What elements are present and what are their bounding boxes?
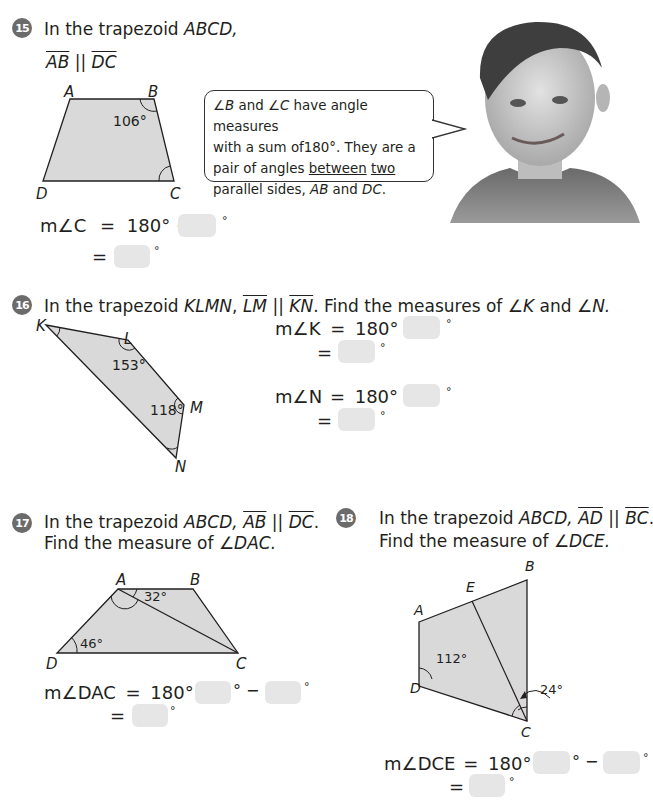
degree-symbol: ° (304, 681, 310, 693)
vertex-c: C (236, 654, 246, 674)
student-photo (440, 8, 645, 226)
trapezoid-klmn-figure (30, 320, 250, 470)
parallel-symbol: || (267, 296, 289, 316)
text: pair of angles (213, 161, 309, 176)
bubble-line-4: parallel sides, AB and DC. (213, 179, 425, 200)
vertex-d: D (46, 654, 58, 674)
answer-box[interactable] (132, 704, 168, 727)
answer-box[interactable] (533, 751, 570, 774)
text: . (382, 182, 386, 197)
vertex-n: N (175, 457, 186, 477)
vertex-l: L (124, 329, 132, 349)
text: . (649, 508, 653, 528)
problem-number-badge: 18 (336, 508, 356, 528)
degree-symbol: ° (222, 215, 228, 227)
answer-box[interactable] (265, 681, 301, 704)
underlined-text: two (371, 161, 395, 176)
title-text: In the trapezoid (379, 508, 519, 528)
shape-name: ABCD, (519, 508, 578, 528)
answer-box[interactable] (338, 340, 375, 363)
trapezoid-abcd-figure (30, 80, 190, 200)
text: Find the measure of (379, 531, 554, 551)
text: . Find the measures of (313, 296, 508, 316)
segment-bc: BC (625, 508, 649, 528)
equation-lhs: m∠K (275, 318, 320, 339)
bubble-line-1: ∠B and ∠C have angle measures (213, 95, 425, 137)
degree-symbol: ° (446, 318, 452, 330)
degree-symbol: ° (170, 705, 176, 717)
vertex-m: M (190, 398, 203, 418)
speech-bubble: ∠B and ∠C have angle measures with a sum… (204, 90, 434, 182)
segment-ab: AB (310, 182, 328, 197)
answer-box[interactable] (195, 681, 231, 704)
equation-17-line1: m∠DAC = 180° − (44, 682, 215, 704)
equation-lhs: m∠DAC (44, 682, 116, 703)
text: and (328, 182, 362, 197)
underlined-text: between (309, 161, 367, 176)
angle-l-label: 153° (112, 355, 146, 375)
problem-number-badge: 15 (12, 18, 32, 38)
answer-box[interactable] (403, 384, 440, 407)
vertex-e: E (466, 577, 475, 597)
equals-sign: = (317, 342, 332, 364)
equals-sign: = (317, 410, 332, 432)
vertex-c: C (170, 184, 180, 204)
vertex-k: K (36, 316, 46, 336)
angle-bac-label: 32° (144, 587, 167, 607)
problem-number-badge: 16 (12, 295, 32, 315)
bubble-line-3: pair of angles between two (213, 158, 425, 179)
equation-lhs: m∠C (40, 215, 86, 236)
title-text: In the trapezoid (44, 296, 184, 316)
equals-sign: = (110, 705, 125, 727)
parallel-symbol: || (266, 512, 288, 532)
angle-d-label: 112° (436, 649, 467, 669)
degree-symbol: ° (380, 342, 386, 354)
angle-bce-label: 24° (540, 680, 563, 700)
answer-box[interactable] (603, 751, 640, 774)
problem-15-title: In the trapezoid ABCD, (44, 19, 238, 39)
problem-number-badge: 17 (12, 513, 32, 533)
angle-d-label: 46° (80, 634, 103, 654)
equation-16k-line1: m∠K = 180° − (275, 318, 419, 340)
bubble-line-2: with a sum of180°. They are a (213, 137, 425, 158)
vertex-b: B (148, 82, 158, 102)
vertex-d: D (36, 184, 48, 204)
answer-box[interactable] (338, 408, 375, 431)
segment-ab: AB (46, 52, 69, 72)
segment-dc: DC (92, 52, 117, 72)
trapezoid-abcd-segment-ce-figure (400, 560, 560, 740)
vertex-b: B (525, 556, 535, 576)
title-text: In the trapezoid (44, 512, 184, 532)
equals-sign: = (92, 246, 107, 268)
text: parallel sides, (213, 182, 310, 197)
degree-symbol: ° (154, 245, 160, 257)
answer-box[interactable] (403, 316, 440, 339)
answer-box[interactable] (114, 245, 150, 268)
equals-sign: = (463, 753, 478, 774)
degree-symbol: ° (643, 752, 649, 764)
title-text: In the trapezoid (44, 19, 184, 39)
answer-box[interactable] (178, 214, 216, 237)
vertex-a: A (414, 600, 424, 620)
equation-lhs: m∠N (275, 386, 322, 407)
trapezoid-abcd-diagonal-figure (40, 570, 260, 670)
answer-box[interactable] (469, 774, 505, 797)
equals-sign: = (126, 682, 141, 703)
vertex-c: C (521, 722, 531, 742)
text: Find the measure of (44, 533, 219, 553)
problem-18-title-line2: Find the measure of ∠DCE. (379, 531, 610, 551)
equation-16n-line1: m∠N = 180° − (275, 386, 419, 408)
vertex-a: A (64, 82, 74, 102)
segment-dc: DC (362, 182, 382, 197)
segment-ad: AD (578, 508, 603, 528)
angle-dce: ∠DCE. (554, 531, 610, 551)
parallel-statement: AB || DC (46, 52, 117, 72)
parallel-symbol: || (603, 508, 625, 528)
problem-17-title-line2: Find the measure of ∠DAC. (44, 533, 276, 553)
degree-minus: ° − (233, 680, 260, 702)
vertex-b: B (190, 570, 200, 590)
vertex-d: D (410, 678, 421, 698)
segment-kn: KN (289, 296, 313, 316)
segment-lm: LM (243, 296, 267, 316)
equals-sign: = (330, 318, 345, 339)
